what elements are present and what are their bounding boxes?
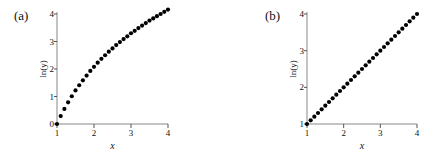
data-point	[140, 23, 144, 27]
data-point	[364, 63, 368, 67]
data-point	[342, 85, 346, 89]
x-tick-label: 4	[166, 128, 171, 138]
data-point	[389, 38, 393, 42]
data-point	[166, 7, 170, 11]
data-point	[118, 40, 122, 44]
data-point	[404, 23, 408, 27]
data-point	[312, 115, 316, 119]
data-point	[408, 19, 412, 23]
data-point	[151, 16, 155, 20]
y-tick-label: 2	[300, 82, 305, 92]
data-point	[327, 100, 331, 104]
data-point	[88, 69, 92, 73]
data-point	[62, 107, 66, 111]
data-point	[99, 57, 103, 61]
data-point	[349, 78, 353, 82]
y-tick-label: 3	[300, 46, 305, 56]
data-point	[411, 16, 415, 20]
x-tick-label: 4	[415, 128, 420, 138]
x-tick-label: 3	[378, 128, 383, 138]
data-point	[136, 26, 140, 30]
data-point	[353, 74, 357, 78]
y-tick-label: 1	[300, 119, 305, 129]
chart-panel-b: (b)12341234xln(y)	[265, 8, 420, 151]
data-point	[125, 34, 129, 38]
data-point	[323, 104, 327, 108]
x-axis-label: x	[359, 140, 365, 151]
y-tick-label: 1	[50, 92, 55, 102]
data-point	[386, 41, 390, 45]
data-point	[400, 27, 404, 31]
data-point	[305, 122, 309, 126]
data-point	[331, 96, 335, 100]
y-tick-label: 4	[300, 9, 305, 19]
panel-label: (b)	[265, 8, 280, 23]
data-point	[70, 94, 74, 98]
data-point	[110, 46, 114, 50]
data-point	[55, 122, 59, 126]
data-point	[92, 65, 96, 69]
data-point	[367, 60, 371, 64]
data-point	[107, 50, 111, 54]
x-tick-label: 3	[129, 128, 134, 138]
y-axis-label: ln(y)	[288, 60, 298, 78]
data-point	[147, 19, 151, 23]
data-point	[122, 37, 126, 41]
data-point	[162, 10, 166, 14]
data-point	[59, 114, 63, 118]
figure: (a)123401234xln(y)(b)12341234xln(y)	[0, 0, 435, 152]
data-point	[316, 111, 320, 115]
data-point	[345, 82, 349, 86]
data-point	[320, 107, 324, 111]
data-point	[81, 78, 85, 82]
data-point	[334, 93, 338, 97]
data-point	[360, 67, 364, 71]
y-tick-label: 2	[50, 64, 55, 74]
y-axis-label: ln(y)	[38, 60, 48, 78]
data-point	[133, 29, 137, 33]
data-point	[129, 31, 133, 35]
data-point	[397, 30, 401, 34]
data-point	[114, 43, 118, 47]
x-tick-label: 1	[305, 128, 310, 138]
data-point	[103, 53, 107, 57]
data-point	[393, 34, 397, 38]
x-tick-label: 1	[55, 128, 60, 138]
data-point	[144, 21, 148, 25]
data-point	[155, 14, 159, 18]
data-point	[338, 89, 342, 93]
data-point	[96, 61, 100, 65]
y-tick-label: 0	[50, 119, 55, 129]
data-point	[378, 49, 382, 53]
y-tick-label: 3	[50, 37, 55, 47]
data-point	[382, 45, 386, 49]
x-tick-label: 2	[341, 128, 346, 138]
y-tick-label: 4	[50, 9, 55, 19]
data-point	[371, 56, 375, 60]
panel-label: (a)	[14, 8, 28, 23]
data-point	[375, 52, 379, 56]
data-point	[309, 118, 313, 122]
data-point	[415, 12, 419, 16]
data-point	[66, 100, 70, 104]
data-point	[356, 71, 360, 75]
data-point	[77, 83, 81, 87]
x-tick-label: 2	[92, 128, 97, 138]
data-point	[73, 88, 77, 92]
chart-panel-a: (a)123401234xln(y)	[14, 7, 171, 151]
x-axis-label: x	[109, 140, 115, 151]
data-point	[85, 74, 89, 78]
data-point	[159, 12, 163, 16]
